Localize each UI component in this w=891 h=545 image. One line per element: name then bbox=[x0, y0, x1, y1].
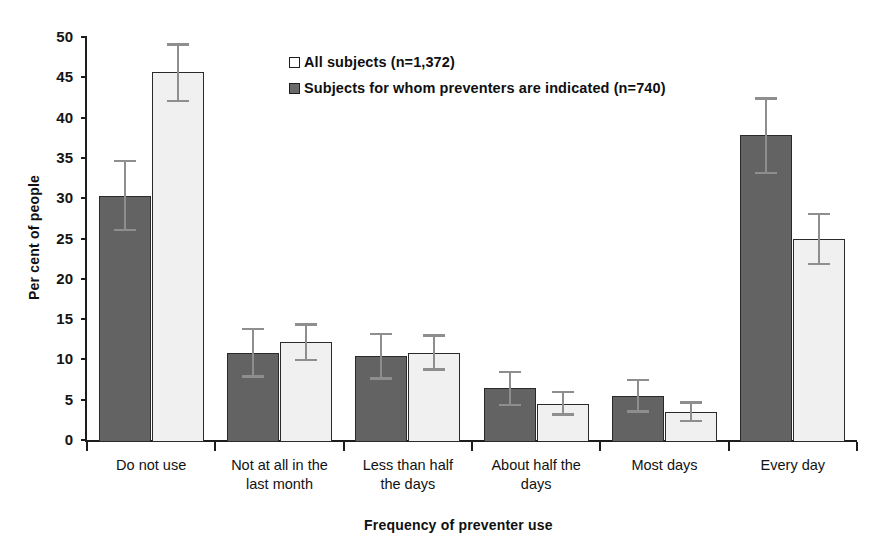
x-tick-mark bbox=[471, 442, 473, 451]
x-tick-mark bbox=[86, 442, 88, 451]
error-bar-all-1 bbox=[295, 323, 317, 361]
y-tick-mark bbox=[81, 399, 87, 401]
error-bar-cap-bottom bbox=[755, 172, 777, 175]
y-tick-label: 45 bbox=[39, 69, 73, 84]
error-bar-cap-top bbox=[114, 160, 136, 163]
error-bar-all-3 bbox=[552, 391, 574, 416]
y-tick-mark bbox=[81, 76, 87, 78]
error-bar-cap-top bbox=[423, 334, 445, 337]
error-bar-indicated-3 bbox=[499, 371, 521, 406]
error-bar-indicated-1 bbox=[242, 328, 264, 378]
error-bar-stem bbox=[562, 391, 564, 416]
x-tick-mark bbox=[728, 442, 730, 451]
x-tick-mark bbox=[343, 442, 345, 451]
error-bar-cap-bottom bbox=[808, 263, 830, 266]
y-tick-label: 15 bbox=[39, 311, 73, 326]
y-tick-label: 0 bbox=[39, 432, 73, 447]
error-bar-cap-top bbox=[755, 97, 777, 100]
x-tick-mark bbox=[856, 442, 858, 451]
error-bar-all-5 bbox=[808, 213, 830, 265]
error-bar-cap-top bbox=[370, 333, 392, 336]
legend-item-preventers-indicated: Subjects for whom preventers are indicat… bbox=[289, 80, 666, 96]
error-bar-all-0 bbox=[167, 43, 189, 102]
error-bar-cap-bottom bbox=[627, 410, 649, 413]
y-tick-label: 25 bbox=[39, 231, 73, 246]
error-bar-cap-bottom bbox=[499, 404, 521, 407]
y-tick-mark bbox=[81, 197, 87, 199]
x-category-label-line: days bbox=[461, 475, 611, 494]
error-bar-cap-bottom bbox=[370, 377, 392, 380]
x-axis-title: Frequency of preventer use bbox=[364, 517, 553, 533]
error-bar-cap-bottom bbox=[295, 359, 317, 362]
error-bar-stem bbox=[124, 160, 126, 232]
error-bar-cap-top bbox=[499, 371, 521, 374]
error-bar-stem bbox=[305, 323, 307, 361]
bar-chart: Per cent of people Frequency of prevente… bbox=[0, 0, 891, 545]
y-tick-mark bbox=[81, 117, 87, 119]
y-tick-mark bbox=[81, 238, 87, 240]
error-bar-stem bbox=[818, 213, 820, 265]
error-bar-cap-bottom bbox=[114, 229, 136, 232]
error-bar-stem bbox=[509, 371, 511, 406]
error-bar-stem bbox=[433, 334, 435, 370]
legend-label-all-subjects: All subjects (n=1,372) bbox=[304, 54, 455, 70]
error-bar-cap-top bbox=[295, 323, 317, 326]
error-bar-all-2 bbox=[423, 334, 445, 370]
y-tick-label: 30 bbox=[39, 190, 73, 205]
y-tick-mark bbox=[81, 318, 87, 320]
error-bar-stem bbox=[637, 379, 639, 413]
y-tick-mark bbox=[81, 36, 87, 38]
error-bar-cap-bottom bbox=[423, 368, 445, 371]
error-bar-stem bbox=[765, 97, 767, 174]
y-tick-label: 10 bbox=[39, 351, 73, 366]
error-bar-indicated-5 bbox=[755, 97, 777, 174]
y-axis-line bbox=[85, 37, 87, 442]
bar-indicated-5 bbox=[740, 135, 792, 442]
bar-all-0 bbox=[152, 72, 204, 442]
legend-item-all-subjects: All subjects (n=1,372) bbox=[289, 54, 455, 70]
y-tick-mark bbox=[81, 157, 87, 159]
x-category-label-5: Every day bbox=[718, 456, 868, 475]
y-tick-label: 35 bbox=[39, 150, 73, 165]
error-bar-indicated-0 bbox=[114, 160, 136, 232]
y-tick-mark bbox=[81, 358, 87, 360]
y-tick-label: 5 bbox=[39, 392, 73, 407]
bar-all-5 bbox=[793, 239, 845, 442]
error-bar-cap-bottom bbox=[552, 413, 574, 416]
legend-swatch-light-icon bbox=[289, 57, 300, 68]
error-bar-cap-bottom bbox=[242, 375, 264, 378]
error-bar-indicated-2 bbox=[370, 333, 392, 380]
error-bar-cap-bottom bbox=[167, 100, 189, 103]
error-bar-stem bbox=[177, 43, 179, 102]
x-category-label-line: Every day bbox=[718, 456, 868, 475]
y-tick-mark bbox=[81, 278, 87, 280]
error-bar-stem bbox=[380, 333, 382, 380]
y-tick-mark bbox=[81, 439, 87, 441]
legend-swatch-dark-icon bbox=[289, 83, 300, 94]
error-bar-cap-top bbox=[680, 401, 702, 404]
error-bar-cap-top bbox=[242, 328, 264, 331]
y-tick-label: 40 bbox=[39, 110, 73, 125]
error-bar-cap-top bbox=[552, 391, 574, 394]
error-bar-cap-bottom bbox=[680, 420, 702, 423]
bar-indicated-0 bbox=[99, 196, 151, 442]
error-bar-cap-top bbox=[627, 379, 649, 382]
x-tick-mark bbox=[214, 442, 216, 451]
error-bar-indicated-4 bbox=[627, 379, 649, 413]
error-bar-cap-top bbox=[808, 213, 830, 216]
error-bar-all-4 bbox=[680, 401, 702, 422]
legend-label-preventers-indicated: Subjects for whom preventers are indicat… bbox=[304, 80, 666, 96]
error-bar-stem bbox=[252, 328, 254, 378]
y-tick-label: 20 bbox=[39, 271, 73, 286]
y-tick-label: 50 bbox=[39, 29, 73, 44]
x-tick-mark bbox=[599, 442, 601, 451]
error-bar-cap-top bbox=[167, 43, 189, 46]
